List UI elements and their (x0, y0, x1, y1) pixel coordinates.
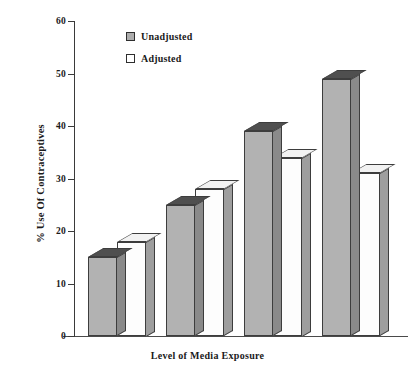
y-axis-tick-label: 20 (40, 226, 66, 236)
y-axis-tick (68, 21, 75, 22)
y-axis-tick (68, 74, 75, 75)
y-axis-tick-label: 50 (40, 69, 66, 79)
bar-front-face (166, 205, 195, 336)
bar-side-face (224, 184, 233, 336)
bar-side-face (195, 200, 204, 336)
bar-unadjusted-group-2 (166, 205, 195, 336)
x-axis-line (63, 336, 408, 337)
y-axis-tick (68, 179, 75, 180)
bar-front-face (244, 131, 273, 336)
bar-chart: % Use Of Contraceptives 6050403020100 Un… (0, 0, 415, 379)
legend-label-unadjusted: Unadjusted (141, 31, 192, 42)
y-axis-tick-label: 0 (40, 331, 66, 341)
gray-square-icon (126, 32, 135, 41)
white-square-icon (126, 54, 135, 63)
y-axis-title: % Use Of Contraceptives (35, 74, 46, 294)
bar-unadjusted-group-1 (88, 257, 117, 336)
y-axis-tick (68, 231, 75, 232)
legend-item-unadjusted: Unadjusted (126, 31, 192, 42)
bar-side-face (273, 126, 282, 336)
bar-side-face (380, 168, 389, 336)
bar-unadjusted-group-3 (244, 131, 273, 336)
bar-front-face (88, 257, 117, 336)
y-axis-tick-label: 60 (40, 16, 66, 26)
x-axis-title: Level of Media Exposure (0, 350, 415, 361)
bar-side-face (146, 236, 155, 336)
legend: Unadjusted Adjusted (126, 31, 192, 75)
y-axis-tick-label: 10 (40, 279, 66, 289)
bar-side-face (351, 74, 360, 336)
bar-unadjusted-group-4 (322, 79, 351, 336)
bar-front-face (322, 79, 351, 336)
y-axis-tick-label: 40 (40, 121, 66, 131)
legend-item-adjusted: Adjusted (126, 53, 192, 64)
y-axis-tick-label: 30 (40, 174, 66, 184)
y-axis-tick (68, 126, 75, 127)
legend-label-adjusted: Adjusted (141, 53, 182, 64)
bar-side-face (117, 252, 126, 336)
y-axis-tick (68, 284, 75, 285)
y-axis-tick (68, 336, 75, 337)
bar-side-face (302, 152, 311, 336)
